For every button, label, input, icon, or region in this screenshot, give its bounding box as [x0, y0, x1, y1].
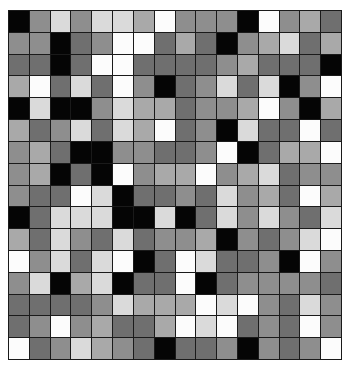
grid-cell — [176, 120, 196, 141]
grid-cell — [134, 98, 154, 119]
grid-cell — [321, 316, 341, 337]
grid-cell — [238, 251, 258, 272]
grid-cell — [217, 186, 237, 207]
grid-cell — [30, 76, 50, 97]
grid-cell — [321, 120, 341, 141]
grid-cell — [155, 338, 175, 359]
grid-cell — [9, 338, 29, 359]
grid-cell — [51, 316, 71, 337]
grid-cell — [321, 295, 341, 316]
grid-cell — [259, 76, 279, 97]
grid-cell — [134, 120, 154, 141]
grid-cell — [134, 229, 154, 250]
grid-cell — [30, 338, 50, 359]
grid-cell — [113, 120, 133, 141]
grid-cell — [113, 98, 133, 119]
grid-cell — [196, 251, 216, 272]
grid-cell — [155, 186, 175, 207]
grid-cell — [300, 273, 320, 294]
grid-cell — [51, 229, 71, 250]
grid-cell — [155, 273, 175, 294]
grid-cell — [238, 316, 258, 337]
grid-cell — [217, 98, 237, 119]
grid-cell — [134, 142, 154, 163]
grid-cell — [280, 229, 300, 250]
grid-cell — [238, 207, 258, 228]
grid-cell — [196, 338, 216, 359]
grid-cell — [321, 55, 341, 76]
grid-cell — [259, 98, 279, 119]
grid-cell — [196, 76, 216, 97]
grid-cell — [259, 229, 279, 250]
grid-cell — [92, 76, 112, 97]
grid-cell — [280, 338, 300, 359]
grid-cell — [71, 142, 91, 163]
grid-cell — [71, 120, 91, 141]
grid-cell — [280, 76, 300, 97]
grid-cell — [30, 120, 50, 141]
grid-cell — [259, 164, 279, 185]
grid-cell — [259, 120, 279, 141]
grid-cell — [280, 207, 300, 228]
grid-cell — [9, 55, 29, 76]
grid-cell — [9, 33, 29, 54]
grid-cell — [176, 207, 196, 228]
grid-cell — [30, 164, 50, 185]
grid-cell — [71, 229, 91, 250]
grid-cell — [300, 186, 320, 207]
grid-cell — [71, 207, 91, 228]
grid-cell — [51, 120, 71, 141]
grid-cell — [217, 251, 237, 272]
grid-cell — [92, 295, 112, 316]
grid-cell — [217, 120, 237, 141]
grid-cell — [217, 76, 237, 97]
grid-cell — [217, 55, 237, 76]
grid-cell — [238, 295, 258, 316]
grid-cell — [217, 11, 237, 32]
grid-cell — [155, 164, 175, 185]
grid-cell — [134, 273, 154, 294]
grid-cell — [9, 98, 29, 119]
grid-cell — [280, 98, 300, 119]
grid-cell — [176, 142, 196, 163]
grid-cell — [30, 251, 50, 272]
grid-cell — [71, 76, 91, 97]
grid-cell — [51, 251, 71, 272]
grid-cell — [196, 295, 216, 316]
grid-cell — [176, 273, 196, 294]
grayscale-tile-grid — [8, 10, 342, 360]
grid-cell — [300, 142, 320, 163]
grid-cell — [51, 186, 71, 207]
grid-cell — [259, 316, 279, 337]
grid-cell — [113, 33, 133, 54]
grid-cell — [134, 295, 154, 316]
grid-cell — [176, 11, 196, 32]
grid-cell — [113, 295, 133, 316]
grid-cell — [259, 186, 279, 207]
grid-cell — [134, 251, 154, 272]
grid-cell — [321, 98, 341, 119]
grid-cell — [280, 273, 300, 294]
grid-cell — [196, 98, 216, 119]
grid-cell — [300, 207, 320, 228]
grid-cell — [238, 33, 258, 54]
grid-cell — [30, 229, 50, 250]
grid-cell — [300, 251, 320, 272]
grid-cell — [280, 316, 300, 337]
grid-cell — [238, 229, 258, 250]
grid-cell — [217, 229, 237, 250]
grid-cell — [92, 338, 112, 359]
grid-cell — [30, 316, 50, 337]
grid-cell — [134, 55, 154, 76]
grid-cell — [155, 33, 175, 54]
grid-cell — [259, 338, 279, 359]
grid-cell — [30, 11, 50, 32]
grid-cell — [71, 98, 91, 119]
grid-cell — [113, 316, 133, 337]
grid-cell — [92, 251, 112, 272]
grid-cell — [51, 98, 71, 119]
grid-cell — [92, 229, 112, 250]
grid-cell — [71, 316, 91, 337]
grid-cell — [280, 120, 300, 141]
grid-cell — [280, 251, 300, 272]
